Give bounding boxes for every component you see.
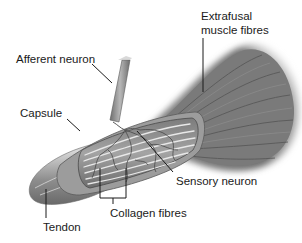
label-sensory-neuron: Sensory neuron: [176, 175, 257, 187]
label-tendon: Tendon: [43, 221, 81, 233]
label-collagen-fibres: Collagen fibres: [110, 207, 187, 219]
leader-capsule: [67, 119, 80, 131]
leader-afferent: [92, 64, 112, 83]
afferent-neuron: [110, 56, 140, 130]
label-afferent-neuron: Afferent neuron: [16, 53, 95, 65]
label-extrafusal-line2: muscle fibres: [201, 24, 269, 36]
label-extrafusal-line1: Extrafusal: [201, 10, 252, 22]
golgi-tendon-organ-diagram: Extrafusal muscle fibres Afferent neuron…: [0, 0, 302, 243]
label-capsule: Capsule: [20, 107, 62, 119]
